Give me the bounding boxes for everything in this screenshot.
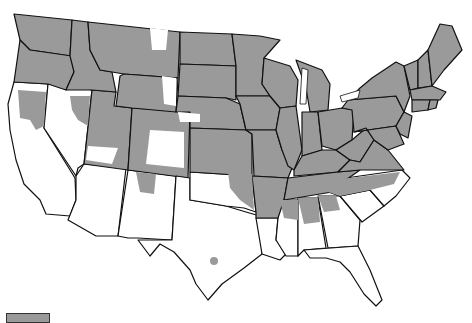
state-arizona xyxy=(68,164,126,236)
unshaded-area-colorado xyxy=(146,130,184,168)
state-kansas xyxy=(190,128,252,176)
unshaded-area-wyoming xyxy=(162,76,176,106)
legend-swatch-shaded xyxy=(6,313,50,323)
state-north-dakota xyxy=(180,32,236,66)
state-florida xyxy=(304,246,382,306)
state-south-dakota xyxy=(178,64,236,100)
state-maine xyxy=(428,24,462,86)
unshaded-area-montana xyxy=(150,28,168,50)
shaded-area-texas xyxy=(210,257,218,265)
state-rhode-island xyxy=(428,100,438,110)
state-connecticut xyxy=(412,100,430,112)
